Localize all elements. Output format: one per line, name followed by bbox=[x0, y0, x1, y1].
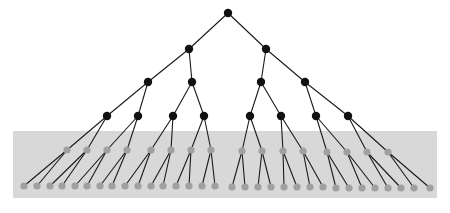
tree-edge bbox=[305, 82, 348, 116]
tree-internal-node bbox=[277, 112, 285, 120]
tree-leaf-node bbox=[258, 147, 265, 154]
tree-edge bbox=[261, 49, 266, 82]
tree-leaf-node bbox=[426, 184, 433, 191]
tree-leaf-node bbox=[267, 183, 274, 190]
tree-leaf-node bbox=[293, 183, 300, 190]
tree-internal-node bbox=[312, 112, 320, 120]
tree-edge bbox=[138, 82, 148, 116]
tree-internal-node bbox=[144, 78, 152, 86]
tree-leaf-node bbox=[306, 183, 313, 190]
tree-edge bbox=[173, 82, 192, 116]
tree-leaf-node bbox=[397, 184, 404, 191]
tree-internal-node bbox=[169, 112, 177, 120]
tree-leaf-node bbox=[343, 148, 350, 155]
tree-edge bbox=[107, 82, 148, 116]
tree-leaf-node bbox=[187, 146, 194, 153]
tree-leaf-node bbox=[384, 184, 391, 191]
tree-internal-node bbox=[301, 78, 309, 86]
tree-leaf-node bbox=[363, 148, 370, 155]
tree-leaf-node bbox=[238, 147, 245, 154]
tree-edge bbox=[189, 13, 228, 49]
tree-leaf-node bbox=[198, 182, 205, 189]
tree-internal-node bbox=[257, 78, 265, 86]
tree-internal-node bbox=[344, 112, 352, 120]
tree-leaf-node bbox=[58, 182, 65, 189]
tree-leaf-node bbox=[83, 182, 90, 189]
tree-leaf-node bbox=[33, 182, 40, 189]
tree-leaf-node bbox=[123, 146, 130, 153]
tree-leaf-node bbox=[96, 182, 103, 189]
tree-edge bbox=[250, 82, 261, 116]
tree-internal-node bbox=[103, 112, 111, 120]
tree-leaf-node bbox=[299, 147, 306, 154]
tree-leaf-node bbox=[228, 183, 235, 190]
tree-leaf-node bbox=[121, 182, 128, 189]
tree-leaf-node bbox=[323, 148, 330, 155]
tree-leaf-node bbox=[241, 183, 248, 190]
tree-leaf-node bbox=[103, 146, 110, 153]
tree-diagram bbox=[0, 0, 450, 213]
tree-edge bbox=[189, 49, 192, 82]
tree-internal-node bbox=[200, 112, 208, 120]
tree-internal-node bbox=[134, 112, 142, 120]
tree-leaf-node bbox=[207, 146, 214, 153]
diagram-canvas bbox=[0, 0, 450, 213]
tree-leaf-node bbox=[319, 183, 326, 190]
tree-leaf-node bbox=[63, 146, 70, 153]
tree-leaf-node bbox=[280, 183, 287, 190]
tree-edge bbox=[192, 82, 204, 116]
tree-internal-node bbox=[188, 78, 196, 86]
tree-leaf-node bbox=[279, 147, 286, 154]
tree-internal-node bbox=[224, 9, 232, 17]
tree-leaf-node bbox=[147, 146, 154, 153]
tree-leaf-node bbox=[20, 182, 27, 189]
tree-edge bbox=[261, 82, 281, 116]
tree-edge bbox=[305, 82, 316, 116]
tree-edge bbox=[228, 13, 266, 49]
tree-leaf-node bbox=[185, 182, 192, 189]
tree-leaf-node bbox=[108, 182, 115, 189]
tree-leaf-node bbox=[211, 182, 218, 189]
tree-leaf-node bbox=[147, 182, 154, 189]
tree-leaf-node bbox=[46, 182, 53, 189]
tree-leaf-node bbox=[167, 146, 174, 153]
tree-leaf-node bbox=[358, 184, 365, 191]
tree-internal-node bbox=[185, 45, 193, 53]
tree-leaf-node bbox=[71, 182, 78, 189]
tree-leaf-node bbox=[345, 184, 352, 191]
tree-leaf-node bbox=[172, 182, 179, 189]
tree-leaf-node bbox=[159, 182, 166, 189]
tree-leaf-node bbox=[332, 184, 339, 191]
tree-internal-node bbox=[262, 45, 270, 53]
tree-leaf-node bbox=[254, 183, 261, 190]
tree-leaf-node bbox=[134, 182, 141, 189]
tree-edge bbox=[148, 49, 189, 82]
tree-internal-node bbox=[246, 112, 254, 120]
tree-leaf-node bbox=[83, 146, 90, 153]
tree-leaf-node bbox=[410, 184, 417, 191]
tree-leaf-node bbox=[384, 148, 391, 155]
tree-edge bbox=[266, 49, 305, 82]
tree-leaf-node bbox=[371, 184, 378, 191]
